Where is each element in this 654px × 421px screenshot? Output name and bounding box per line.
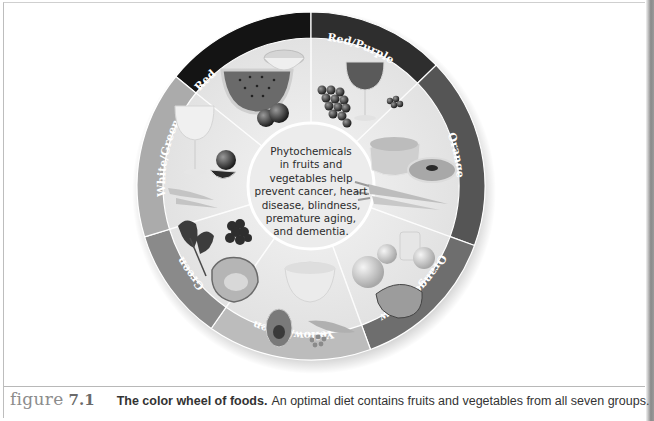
- orange-icon: [352, 256, 384, 288]
- caption-divider: [4, 386, 645, 387]
- figure-caption: figure 7.1 The color wheel of foods. An …: [10, 389, 649, 413]
- center-text-line: vegetables help: [249, 172, 373, 185]
- center-text-line: premature aging,: [249, 212, 373, 225]
- orange-icon: [377, 244, 397, 264]
- center-text-line: Phytochemicals: [249, 145, 373, 158]
- center-message: Phytochemicals in fruits and vegetables …: [249, 145, 373, 239]
- figure-label-word: figure: [10, 389, 64, 409]
- center-text-line: disease, blindness,: [249, 199, 373, 212]
- center-text-line: and dementia.: [249, 225, 373, 238]
- center-text-line: in fruits and: [249, 158, 373, 171]
- figure-number: 7.1: [69, 391, 95, 409]
- plum-icon: [269, 103, 289, 123]
- onion-icon: [216, 150, 236, 170]
- center-text-line: prevent cancer, heart: [249, 185, 373, 198]
- caption-body: An optimal diet contains fruits and vege…: [271, 394, 649, 408]
- caption-title: The color wheel of foods.: [117, 394, 268, 408]
- peach-icon: [413, 247, 435, 269]
